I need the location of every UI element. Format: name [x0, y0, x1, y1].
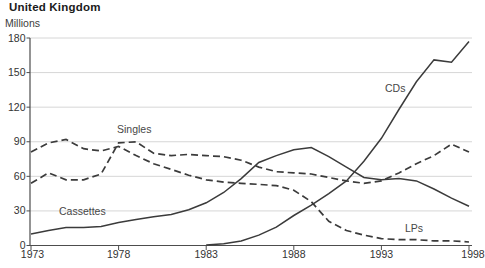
x-tick-label-1998: 1998: [461, 248, 485, 260]
x-tick-label-1993: 1993: [370, 248, 394, 260]
series-label-singles: Singles: [117, 123, 151, 135]
chart-panel: United Kingdom Millions 0306090120150180…: [0, 0, 485, 268]
y-tick-label-180: 180: [8, 32, 26, 44]
series-label-cds: CDs: [385, 82, 405, 94]
x-tick-label-1978: 1978: [107, 248, 131, 260]
x-tick-label-1983: 1983: [195, 248, 219, 260]
series-line-cds: [206, 42, 469, 245]
y-tick-label-120: 120: [8, 101, 26, 113]
series-line-cassettes: [31, 148, 469, 235]
series-label-lps: LPs: [405, 222, 423, 234]
y-tick-label-30: 30: [14, 204, 26, 216]
series-line-singles: [31, 142, 469, 184]
x-tick-label-1988: 1988: [282, 248, 306, 260]
line-chart-canvas: 0306090120150180197319781983198819931998…: [0, 0, 485, 268]
y-tick-label-90: 90: [14, 135, 26, 147]
series-label-cassettes: Cassettes: [59, 205, 106, 217]
y-tick-label-150: 150: [8, 66, 26, 78]
y-tick-label-60: 60: [14, 170, 26, 182]
x-tick-label-1973: 1973: [21, 248, 45, 260]
